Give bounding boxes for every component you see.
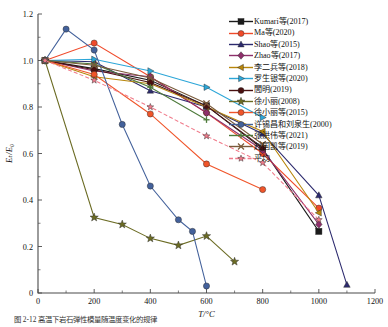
legend-label: Shao等(2015) — [254, 39, 300, 50]
legend-label: Ma等(2020) — [254, 27, 294, 38]
legend-symbol-3 — [228, 39, 254, 50]
x-axis-ticks: 020040060080010001200 — [36, 289, 383, 306]
legend-symbol-2 — [228, 28, 254, 39]
legend-label: 张洪伟等(2021) — [254, 130, 308, 141]
legend-label: 李二兵等(2018) — [254, 62, 308, 73]
chart-legend: Kumari等(2017)Ma等(2020)Shao等(2015)Zhao等(2… — [228, 16, 386, 164]
legend-item[interactable]: 赵国凯等(2019) — [228, 141, 386, 152]
legend-symbol-8 — [228, 96, 254, 107]
y-tick-label: 0.4 — [23, 196, 33, 205]
legend-symbol-7 — [228, 85, 254, 96]
legend-item[interactable]: 许锡昌和刘泉生(2000) — [228, 119, 386, 130]
x-tick-label: 1200 — [367, 297, 383, 306]
legend-symbol-11 — [228, 130, 254, 141]
legend-symbol-13 — [228, 153, 254, 164]
figure-caption: 图 2-12 高温下岩石弹性模量随温度变化的规律 — [14, 315, 374, 324]
legend-item[interactable]: 徐小丽(2008) — [228, 96, 386, 107]
legend-item[interactable]: 李二兵等(2018) — [228, 62, 386, 73]
y-tick-label: 1.2 — [23, 10, 33, 19]
legend-symbol-12 — [228, 141, 254, 152]
x-tick-label: 400 — [144, 297, 156, 306]
legend-item[interactable]: Ma等(2020) — [228, 27, 386, 38]
legend-label: Kumari等(2017) — [254, 16, 308, 27]
legend-item[interactable]: Shao等(2015) — [228, 39, 386, 50]
legend-symbol-4 — [228, 50, 254, 61]
legend-item[interactable]: 閭明(2019) — [228, 84, 386, 95]
legend-label: 赵国凯等(2019) — [254, 141, 308, 152]
y-tick-label: 0.8 — [23, 103, 33, 112]
legend-symbol-5 — [228, 62, 254, 73]
legend-item[interactable]: 平均 — [228, 153, 386, 164]
legend-item[interactable]: Kumari等(2017) — [228, 16, 386, 27]
x-tick-label: 800 — [257, 297, 269, 306]
y-tick-label: 1.0 — [23, 57, 33, 66]
legend-symbol-6 — [228, 73, 254, 84]
legend-item[interactable]: Zhao等(2017) — [228, 50, 386, 61]
y-tick-label: 0.6 — [23, 150, 33, 159]
legend-label: 平均 — [254, 153, 270, 164]
legend-symbol-9 — [228, 107, 254, 118]
legend-symbol-10 — [228, 119, 254, 130]
legend-item[interactable]: 罗生银等(2020) — [228, 73, 386, 84]
legend-item[interactable]: 徐小丽等(2015) — [228, 107, 386, 118]
y-axis-ticks: 00.20.40.60.81.01.2 — [23, 10, 42, 298]
x-tick-label: 1000 — [311, 297, 327, 306]
legend-label: Zhao等(2017) — [254, 50, 300, 61]
legend-label: 罗生银等(2020) — [254, 73, 308, 84]
x-tick-label: 0 — [36, 297, 40, 306]
figure-container: 02004006008001000120000.20.40.60.81.01.2… — [0, 0, 388, 327]
legend-label: 许锡昌和刘泉生(2000) — [254, 119, 332, 130]
legend-item[interactable]: 张洪伟等(2021) — [228, 130, 386, 141]
legend-label: 徐小丽等(2015) — [254, 107, 308, 118]
legend-label: 閭明(2019) — [254, 84, 292, 95]
y-axis-title: Eₜ/E₀ — [4, 144, 14, 164]
x-tick-label: 200 — [88, 297, 100, 306]
x-tick-label: 600 — [200, 297, 212, 306]
y-tick-label: 0.2 — [23, 243, 33, 252]
y-tick-label: 0 — [29, 289, 33, 298]
legend-symbol-1 — [228, 16, 254, 27]
legend-label: 徐小丽(2008) — [254, 96, 300, 107]
